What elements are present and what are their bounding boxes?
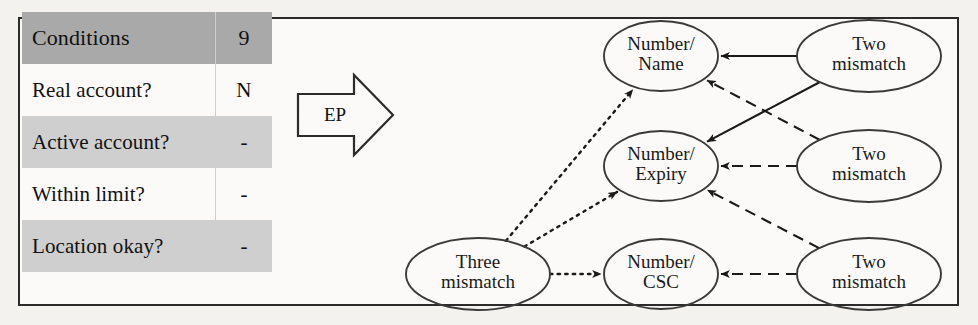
graph-node-two-mismatch-1[interactable] [797,20,941,92]
graph-edge-two-mismatch-2-to-number-name [707,80,819,139]
screenshot-root: Conditions 9 Real account? N Active acco… [0,0,978,325]
graph-node-number-expiry[interactable] [604,131,718,201]
graph-node-number-csc[interactable] [604,239,718,309]
graph-edge-three-mismatch-to-number-name [506,90,633,241]
graph-node-number-name[interactable] [604,21,718,91]
graph-edge-three-mismatch-to-number-expiry [525,192,618,247]
graph-node-two-mismatch-2[interactable] [797,130,941,202]
graph-edge-two-mismatch-1-to-number-expiry [707,82,819,141]
graph-node-two-mismatch-3[interactable] [797,238,941,310]
graph-edge-two-mismatch-3-to-number-expiry [707,190,819,248]
mismatch-graph [0,0,978,325]
graph-node-three-mismatch[interactable] [406,238,550,310]
graph-edges [506,56,820,274]
graph-nodes [406,20,941,310]
